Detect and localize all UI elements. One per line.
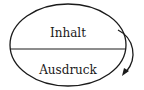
bottom-label-ausdruck: Ausdruck [38,63,97,77]
sign-diagram: Inhalt Ausdruck [0,0,144,90]
top-label-inhalt: Inhalt [50,26,86,40]
